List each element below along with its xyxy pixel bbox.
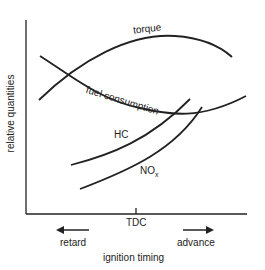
retard-arrow-icon — [56, 226, 89, 234]
chart-plot — [0, 0, 265, 270]
advance-arrow-icon — [183, 226, 214, 234]
retard-label: retard — [60, 237, 86, 248]
y-axis-label: relative quantities — [5, 75, 16, 153]
tdc-label: TDC — [126, 217, 147, 228]
torque-curve — [39, 36, 232, 100]
x-axis-label: ignition timing — [103, 252, 164, 263]
hc-label: HC — [114, 129, 128, 140]
hc-label-text: HC — [114, 129, 128, 140]
nox-subscript: x — [155, 171, 159, 178]
nox-label-text: NO — [140, 165, 155, 176]
hc-curve — [71, 99, 190, 165]
advance-label: advance — [177, 237, 215, 248]
nox-label: NOx — [140, 165, 159, 178]
